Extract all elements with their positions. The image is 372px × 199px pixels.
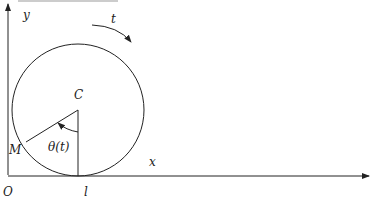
x-axis-label: x (149, 155, 156, 169)
origin-label: O (3, 185, 13, 199)
time-label: t (111, 12, 116, 26)
angle-label: θ(t) (48, 140, 70, 154)
caption-fragment (18, 0, 118, 2)
angle-arc-arrow (58, 123, 78, 132)
cycloid-diagram: y t C M θ(t) x O l (0, 0, 372, 199)
rotation-arrow (92, 25, 131, 42)
y-axis-label: y (22, 8, 30, 22)
contact-point-label: l (84, 185, 88, 199)
point-m-label: M (8, 143, 22, 157)
center-label: C (74, 88, 83, 102)
radius-to-m (26, 110, 78, 142)
